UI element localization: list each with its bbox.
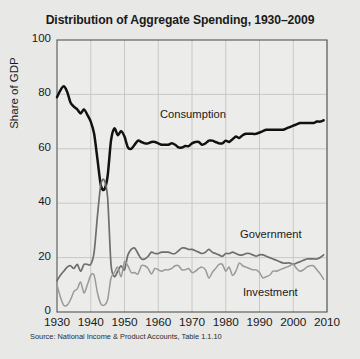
- source-caption: Source: National Income & Product Accoun…: [30, 332, 222, 341]
- y-tick-label: 100: [17, 32, 51, 44]
- y-tick-label: 80: [17, 86, 51, 98]
- y-tick-label: 60: [17, 141, 51, 153]
- x-tick-label: 2010: [305, 315, 349, 329]
- chart-title: Distribution of Aggregate Spending, 1930…: [0, 13, 360, 27]
- series-label-consumption: Consumption: [160, 108, 226, 120]
- plot-area: [0, 0, 360, 359]
- series-label-investment: Investment: [243, 286, 298, 298]
- chart-figure: Distribution of Aggregate Spending, 1930…: [0, 0, 360, 359]
- y-tick-label: 20: [17, 250, 51, 262]
- y-tick-label: 40: [17, 195, 51, 207]
- series-label-government: Government: [240, 228, 302, 240]
